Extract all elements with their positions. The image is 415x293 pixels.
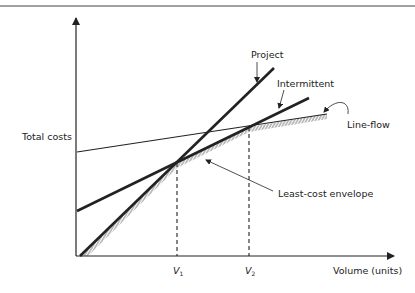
envelope-pointer [206, 160, 273, 191]
line-flow-pointer [324, 102, 348, 114]
intermittent-cost-line [77, 98, 309, 211]
x-axis-label: Volume (units) [333, 265, 402, 276]
intermittent-label: Intermittent [277, 78, 334, 89]
cost-volume-diagram: Total costs Volume (units) Project Inter… [0, 0, 415, 293]
intermittent-pointer [279, 90, 284, 108]
line-flow-label: Line-flow [347, 119, 390, 130]
project-label: Project [251, 49, 284, 60]
v1-marker: V1 [173, 265, 184, 277]
y-axis-label: Total costs [21, 131, 72, 142]
line-flow-cost-line [77, 114, 327, 152]
v2-marker: V2 [245, 265, 256, 277]
envelope-label: Least-cost envelope [278, 188, 373, 199]
